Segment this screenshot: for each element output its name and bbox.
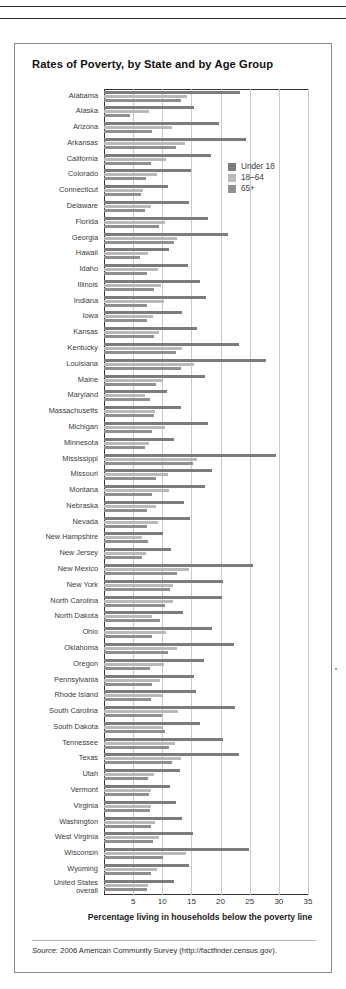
bar-u18 [104,217,208,220]
bar-a65 [104,683,152,686]
bar-group [104,817,309,833]
bar-u18 [104,690,196,693]
bar-group [104,390,309,406]
chart-title: Rates of Poverty, by State and by Age Gr… [32,58,273,70]
y-axis-label-alabama: Alabama [14,92,98,100]
bar-a1864 [104,663,164,666]
bar-u18 [104,501,184,504]
bar-group [104,753,309,769]
bar-group [104,785,309,801]
y-axis-label-mississippi: Mississippi [14,455,98,463]
bar-u18 [104,185,168,188]
bar-group [104,880,309,896]
bar-group [104,422,309,438]
y-axis-label-illinois: Illinois [14,281,98,289]
bar-a65 [104,114,130,117]
y-axis-label-maryland: Maryland [14,391,98,399]
bar-a65 [104,146,176,149]
bar-a65 [104,809,150,812]
y-axis-label-iowa: Iowa [14,312,98,320]
bar-a1864 [104,726,163,729]
bar-group [104,91,309,107]
x-tick-label-5: 5 [131,897,135,906]
y-axis-label-rhode-island: Rhode Island [14,691,98,699]
y-axis-label-united-states-overall: United Statesoverall [14,879,98,895]
bar-group [104,264,309,280]
figure-container: Rates of Poverty, by State and by Age Gr… [14,43,332,973]
y-axis-label-pennsylvania: Pennsylvania [14,676,98,684]
legend-label-18-64: 18–64 [241,173,264,182]
bar-u18 [104,753,239,756]
bar-group [104,122,309,138]
y-axis-label-new-york: New York [14,581,98,589]
source-prefix: Source: [32,946,58,955]
y-axis-label-wyoming: Wyoming [14,865,98,873]
bar-group [104,706,309,722]
y-axis-label-alaska: Alaska [14,107,98,115]
y-axis-label-idaho: Idaho [14,265,98,273]
bar-group [104,848,309,864]
bar-a1864 [104,757,181,760]
y-axis-label-nebraska: Nebraska [14,502,98,510]
bar-a65 [104,351,176,354]
bar-group [104,722,309,738]
y-axis-label-south-carolina: South Carolina [14,707,98,715]
legend-item-65-plus: 65+ [228,184,275,193]
x-tick-label-30: 30 [274,897,283,906]
bar-a65 [104,635,152,638]
bar-a1864 [104,679,160,682]
bar-u18 [104,517,190,520]
bar-a1864 [104,742,175,745]
y-axis-label-tennessee: Tennessee [14,739,98,747]
bar-group [104,485,309,501]
bar-a65 [104,714,162,717]
bar-group [104,517,309,533]
x-tick-label-25: 25 [245,897,254,906]
bar-u18 [104,548,171,551]
bar-a65 [104,556,142,559]
bar-group [104,469,309,485]
bar-u18 [104,438,174,441]
bar-a1864 [104,552,146,555]
x-axis-tick-labels: 5101520253035 [104,897,309,909]
y-axis-label-arkansas: Arkansas [14,139,98,147]
y-axis-label-minnesota: Minnesota [14,439,98,447]
bar-group [104,627,309,643]
bar-a65 [104,225,159,228]
source-text: 2006 American Community Survey (http://f… [58,946,277,955]
bar-a1864 [104,221,165,224]
bar-a65 [104,793,149,796]
y-axis-label-florida: Florida [14,218,98,226]
bar-a1864 [104,205,151,208]
bar-u18 [104,375,205,378]
y-axis-label-kansas: Kansas [14,328,98,336]
bar-group [104,406,309,422]
bar-a1864 [104,789,151,792]
bar-a1864 [104,473,168,476]
y-axis-label-new-mexico: New Mexico [14,565,98,573]
bar-a1864 [104,363,194,366]
bar-group [104,596,309,612]
bar-a1864 [104,142,185,145]
bar-group [104,248,309,264]
bar-group [104,580,309,596]
bar-group [104,675,309,691]
bar-a65 [104,777,148,780]
bar-a65 [104,840,153,843]
bar-a65 [104,761,172,764]
x-axis-title: Percentage living in households below th… [75,912,325,923]
bar-u18 [104,532,163,535]
bar-a1864 [104,95,187,98]
bar-a1864 [104,521,158,524]
bar-a65 [104,335,154,338]
bar-u18 [104,864,189,867]
x-tick-label-10: 10 [158,897,167,906]
bar-group [104,311,309,327]
bar-a1864 [104,379,163,382]
bar-a65 [104,525,147,528]
bar-u18 [104,248,169,251]
y-axis-label-west-virginia: West Virginia [14,833,98,841]
y-axis-label-wisconsin: Wisconsin [14,849,98,857]
bar-group [104,501,309,517]
bar-a1864 [104,868,157,871]
